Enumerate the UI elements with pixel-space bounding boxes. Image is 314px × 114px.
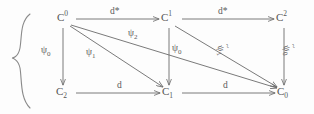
node-c0-bottom-subscript: 0 (284, 91, 288, 100)
edge-label-dstar-top-right: d* (218, 7, 228, 17)
node-c1-bottom: C1 (162, 86, 173, 97)
node-c2-bottom: C2 (56, 86, 67, 97)
node-c0-top: C0 (57, 12, 68, 23)
arrow-diagonal-psitilde1 (175, 26, 277, 87)
node-c0-top-superscript: 0 (64, 9, 68, 18)
psi-subscript: 0 (178, 48, 182, 56)
node-c2-top: C2 (276, 12, 287, 23)
node-c1-top: C1 (161, 12, 172, 23)
edge-label-psi-2-diagonal: ψ2 (128, 29, 137, 39)
edge-label-psi-0-middle: ψ0 (172, 44, 181, 54)
psi-subscript: 2 (134, 33, 138, 41)
psi-subscript: 1 (92, 52, 96, 60)
node-c2-top-superscript: 2 (283, 9, 287, 18)
node-c1-top-superscript: 1 (168, 9, 172, 18)
edge-label-psi-0-left: ψ0 (41, 46, 50, 56)
curly-brace-decoration (12, 14, 30, 108)
edge-label-d-bottom-left: d (117, 81, 122, 91)
node-c1-bottom-subscript: 1 (169, 91, 173, 100)
psi-tilde-group: ~ψ (215, 44, 226, 53)
psi-subscript: 0 (47, 50, 51, 58)
node-c0-bottom: C0 (277, 86, 288, 97)
arrow-diagonal-psi1 (70, 26, 163, 87)
edge-label-psi-1-diagonal: ψ1 (86, 48, 95, 58)
node-c2-bottom-subscript: 2 (63, 91, 67, 100)
edge-label-dstar-top-left: d* (110, 7, 120, 17)
edge-label-d-bottom-right: d (223, 81, 228, 91)
diagram-canvas: C0 C1 C2 C2 C1 C0 d* d* d d ψ0 ψ1 ψ2 ψ0 … (0, 0, 314, 114)
psi-tilde-group: ~ψ (281, 44, 292, 53)
arrow-diagonal-psi2 (71, 25, 277, 88)
